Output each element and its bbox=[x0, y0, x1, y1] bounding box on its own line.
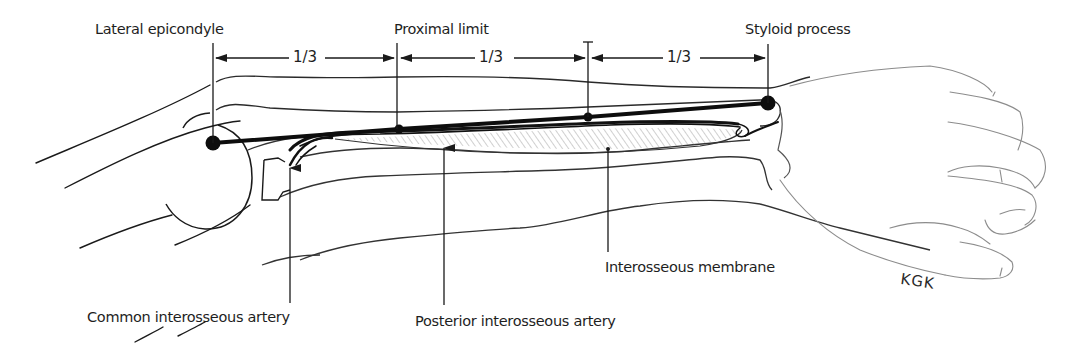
label-styloid-process: Styloid process bbox=[745, 22, 850, 37]
label-lateral-epicondyle: Lateral epicondyle bbox=[95, 22, 224, 37]
forearm-illustration bbox=[0, 0, 1081, 350]
radial-head bbox=[262, 158, 290, 200]
bottom-leader-lines bbox=[290, 148, 608, 305]
wrist-outline bbox=[778, 110, 790, 178]
elbow-outline bbox=[166, 113, 252, 229]
forearm-outline bbox=[216, 76, 810, 126]
upper-arm-outline bbox=[36, 85, 250, 342]
proximal-limit-dot bbox=[395, 125, 404, 134]
anatomy-diagram: Lateral epicondyle Proximal limit Styloi… bbox=[0, 0, 1081, 350]
interosseous-membrane-pointer-dot bbox=[606, 147, 610, 151]
segment-label-2: 1/3 bbox=[475, 50, 507, 65]
segment-label-3: 1/3 bbox=[663, 50, 695, 65]
hand-outline bbox=[780, 66, 1045, 279]
radius-outline bbox=[248, 137, 930, 265]
segment-label-1: 1/3 bbox=[289, 50, 321, 65]
label-posterior-interosseous-artery: Posterior interosseous artery bbox=[415, 314, 616, 329]
label-common-interosseous-artery: Common interosseous artery bbox=[87, 310, 290, 325]
common-interosseous-artery-line bbox=[290, 138, 332, 165]
label-proximal-limit: Proximal limit bbox=[394, 22, 489, 37]
label-interosseous-membrane: Interosseous membrane bbox=[605, 260, 775, 275]
